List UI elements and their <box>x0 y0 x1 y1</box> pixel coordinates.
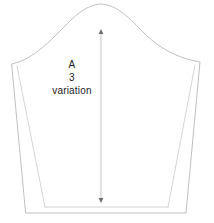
pattern-piece-letter: A <box>30 59 114 72</box>
pattern-diagram-canvas: A 3 variation <box>0 0 214 223</box>
pattern-piece-label: A 3 variation <box>30 59 114 97</box>
pattern-piece-number: 3 <box>30 72 114 85</box>
pattern-piece-variant: variation <box>30 85 114 98</box>
sleeve-pattern-drawing <box>0 0 214 223</box>
